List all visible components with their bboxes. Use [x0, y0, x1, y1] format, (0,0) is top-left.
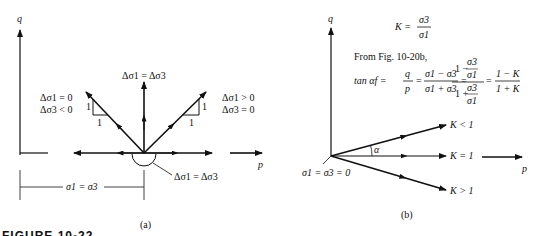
- origin-leader: [323, 156, 331, 164]
- right-label-1: Δσ1 > 0: [222, 92, 254, 103]
- origin-label: σ1 = σ3 = 0: [302, 167, 350, 178]
- p-axis-label-b: p: [521, 163, 527, 174]
- frac4-num: 1 − K: [496, 68, 521, 79]
- tan-lhs: tan αf =: [354, 75, 387, 86]
- top-label: Δσ1 = Δσ3: [122, 70, 166, 81]
- slope-left-rise: 1: [86, 101, 91, 112]
- frac4-den: 1 + K: [496, 83, 521, 94]
- left-label-1: Δσ1 = 0: [40, 92, 72, 103]
- arrow-up-right: [144, 92, 206, 153]
- mid-arrow-up-right: [163, 126, 172, 135]
- from-text: From Fig. 10-20b,: [354, 51, 427, 62]
- arc-label: Δσ1 = Δσ3: [174, 171, 218, 182]
- slope-left-run: 1: [97, 117, 102, 128]
- left-label-2: Δσ3 < 0: [40, 104, 72, 115]
- frac2-den: σ1 + σ3: [425, 83, 457, 94]
- dimension-label: σ1 = σ3: [66, 181, 98, 192]
- figure-caption: FIGURE 10-22: [2, 229, 93, 236]
- slope-right-rise: 1: [202, 101, 207, 112]
- label-k-greater-1: K > 1: [449, 185, 473, 196]
- alpha-label: α: [374, 144, 380, 155]
- q-num: q: [405, 68, 410, 79]
- frac3-num-frac-den: σ1: [467, 69, 477, 80]
- label-k-equal-1: K = 1: [449, 150, 473, 161]
- q-axis-label-a: q: [17, 13, 22, 24]
- label-k-less-1: K < 1: [449, 119, 473, 130]
- k-def-den: σ1: [419, 29, 429, 40]
- angle-arc: [132, 154, 156, 166]
- eq-sign-1: =: [416, 75, 422, 86]
- panel-b: q K = σ3 σ1 From Fig. 10-20b, tan αf = q…: [302, 13, 527, 221]
- frac3-den-frac-den: σ1: [467, 95, 477, 106]
- p-axis-label-a: p: [257, 159, 263, 170]
- frac2-num: σ1 − σ3: [425, 68, 457, 79]
- right-label-2: Δσ3 = 0: [222, 104, 254, 115]
- arc-leader: [153, 163, 172, 175]
- alpha-arc: [371, 145, 373, 156]
- ray-k-less-1: [331, 125, 446, 156]
- panel-a: q p Δσ1 = Δσ3 1 1 Δσ1 = 0 Δσ3 < 0 1 1 Δσ…: [17, 13, 263, 231]
- arrow-up-left: [86, 92, 144, 153]
- frac3-num-frac-num: σ3: [467, 56, 477, 67]
- slope-right-run: 1: [189, 117, 194, 128]
- k-def-num: σ3: [419, 14, 429, 25]
- eq-sign-3: =: [486, 75, 492, 86]
- panel-a-label: (a): [140, 219, 151, 231]
- mid-arrow-up-left: [118, 126, 126, 135]
- p-den: p: [404, 83, 410, 94]
- panel-b-label: (b): [401, 209, 413, 221]
- k-def-lhs: K =: [394, 21, 411, 32]
- figure-canvas: q p Δσ1 = Δσ3 1 1 Δσ1 = 0 Δσ3 < 0 1 1 Δσ…: [0, 0, 535, 236]
- q-axis-label-b: q: [328, 13, 333, 24]
- frac3-den-frac-num: σ3: [467, 82, 477, 93]
